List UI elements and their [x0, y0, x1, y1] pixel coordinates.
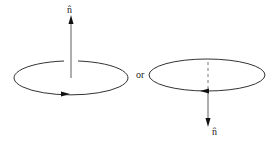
right-loop	[149, 59, 265, 127]
up-arrowhead-icon	[69, 15, 74, 24]
or-label: or	[136, 69, 144, 80]
normal-label-right: n̂	[212, 126, 217, 137]
circulation-arrow-left-icon	[200, 89, 209, 94]
down-arrowhead-icon	[206, 118, 211, 127]
circulation-arrow-right-icon	[61, 92, 70, 97]
left-loop	[14, 15, 128, 97]
normal-label-left: n̂	[67, 4, 72, 15]
